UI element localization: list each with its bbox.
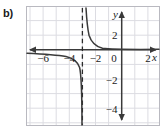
graph-svg: −6 −4 −2 0 2 2 −2 −4 x y <box>26 6 160 126</box>
plot-frame <box>27 7 160 126</box>
plot-area: −6 −4 −2 0 2 2 −2 −4 x y <box>26 6 160 126</box>
x-tick-label-neg2: −2 <box>90 52 102 64</box>
x-tick-label-neg4: −4 <box>63 52 75 64</box>
y-axis-label: y <box>112 8 118 20</box>
y-tick-label-neg2: −2 <box>106 74 118 86</box>
figure-container: b) <box>0 0 167 133</box>
x-tick-label-neg6: −6 <box>37 52 49 64</box>
y-tick-label-2: 2 <box>112 29 118 41</box>
x-axis-label: x <box>151 51 157 63</box>
x-tick-label-2: 2 <box>145 52 151 64</box>
y-tick-label-neg4: −4 <box>106 103 118 115</box>
x-tick-label-zero: 0 <box>111 52 117 64</box>
part-label: b) <box>3 7 13 19</box>
